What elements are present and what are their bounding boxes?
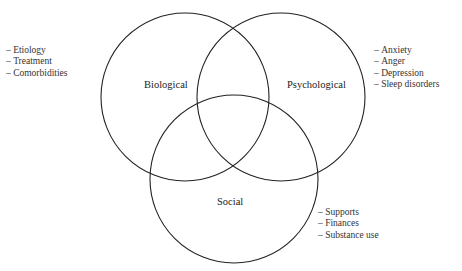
list-item: Comorbidities — [6, 68, 68, 79]
list-item: Supports — [318, 207, 379, 218]
biological-label: Biological — [144, 79, 188, 91]
biological-items-list: Etiology Treatment Comorbidities — [6, 45, 68, 79]
social-label: Social — [217, 196, 243, 208]
list-item: Sleep disorders — [374, 79, 439, 90]
list-item: Etiology — [6, 45, 68, 56]
list-item: Anxiety — [374, 45, 439, 56]
venn-diagram — [0, 0, 462, 271]
list-item: Finances — [318, 218, 379, 229]
biological-circle — [101, 13, 269, 181]
psychological-circle — [197, 13, 365, 181]
psychological-items-list: Anxiety Anger Depression Sleep disorders — [374, 45, 439, 91]
list-item: Substance use — [318, 230, 379, 241]
list-item: Treatment — [6, 56, 68, 67]
list-item: Depression — [374, 68, 439, 79]
list-item: Anger — [374, 56, 439, 67]
social-items-list: Supports Finances Substance use — [318, 207, 379, 241]
social-circle — [150, 95, 318, 263]
psychological-label: Psychological — [287, 79, 346, 91]
